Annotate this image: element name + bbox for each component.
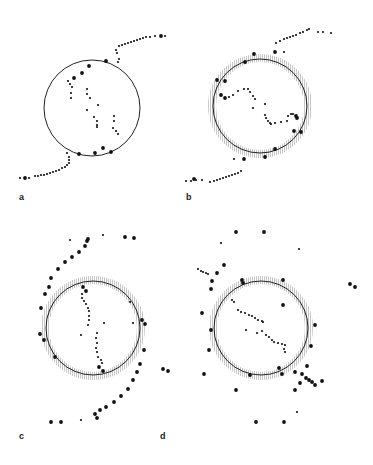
large-dot bbox=[72, 76, 76, 80]
boundary-circle bbox=[44, 60, 140, 156]
large-dot bbox=[77, 152, 81, 156]
small-dot bbox=[290, 113, 292, 115]
large-dot bbox=[222, 263, 226, 267]
large-dot bbox=[273, 50, 277, 54]
small-dot bbox=[83, 300, 85, 302]
small-dot bbox=[254, 317, 256, 319]
small-dot bbox=[102, 234, 104, 236]
large-dot bbox=[207, 348, 211, 352]
small-dot bbox=[97, 104, 99, 106]
small-dot bbox=[93, 116, 95, 118]
small-dot bbox=[248, 314, 250, 316]
small-dot bbox=[96, 126, 98, 128]
large-dot bbox=[140, 318, 144, 322]
small-dot bbox=[317, 31, 319, 33]
figure-canvas bbox=[0, 0, 373, 465]
small-dot bbox=[130, 41, 132, 43]
small-dot bbox=[274, 122, 276, 124]
large-dot bbox=[210, 279, 214, 283]
small-dot bbox=[113, 115, 115, 117]
small-dot bbox=[61, 167, 63, 169]
large-dot bbox=[161, 367, 165, 371]
small-dot bbox=[330, 32, 332, 34]
large-dot bbox=[273, 147, 277, 151]
boundary-circle bbox=[46, 281, 140, 375]
small-dot bbox=[219, 178, 221, 180]
small-dot bbox=[70, 97, 72, 99]
large-dot bbox=[142, 348, 146, 352]
boundary-circle bbox=[214, 281, 308, 375]
small-dot bbox=[86, 109, 88, 111]
small-dot bbox=[96, 332, 98, 334]
small-dot bbox=[306, 29, 308, 31]
small-dot bbox=[252, 95, 254, 97]
small-dot bbox=[233, 301, 235, 303]
small-dot bbox=[287, 115, 289, 117]
small-dot bbox=[265, 117, 267, 119]
small-dot bbox=[283, 38, 285, 40]
small-dot bbox=[284, 351, 286, 353]
small-dot bbox=[52, 171, 54, 173]
small-dot bbox=[43, 174, 45, 176]
small-dot bbox=[280, 121, 282, 123]
small-dot bbox=[68, 159, 70, 161]
panel-label-c: c bbox=[19, 431, 24, 441]
large-dot bbox=[254, 420, 258, 424]
small-dot bbox=[86, 93, 88, 95]
large-dot bbox=[81, 285, 85, 289]
small-dot bbox=[308, 28, 310, 30]
small-dot bbox=[89, 97, 91, 99]
small-dot bbox=[68, 156, 70, 158]
small-dot bbox=[69, 83, 71, 85]
small-dot bbox=[273, 341, 275, 343]
large-dot bbox=[159, 34, 163, 38]
large-dot bbox=[209, 328, 213, 332]
large-dot bbox=[123, 235, 127, 239]
small-dot bbox=[28, 177, 30, 179]
small-dot bbox=[240, 170, 242, 172]
small-dot bbox=[124, 43, 126, 45]
small-dot bbox=[133, 40, 135, 42]
small-dot bbox=[117, 61, 119, 63]
large-dot bbox=[293, 370, 297, 374]
small-dot bbox=[257, 319, 259, 321]
small-dot bbox=[237, 309, 239, 311]
small-dot bbox=[292, 35, 294, 37]
large-dot bbox=[109, 150, 113, 154]
small-dot bbox=[88, 310, 90, 312]
small-dot bbox=[95, 347, 97, 349]
large-dot bbox=[47, 285, 51, 289]
panel-b bbox=[185, 28, 332, 183]
small-dot bbox=[262, 321, 264, 323]
large-dot bbox=[143, 322, 147, 326]
panel-d bbox=[197, 230, 357, 424]
small-dot bbox=[205, 272, 207, 274]
small-dot bbox=[245, 329, 247, 331]
large-dot bbox=[263, 155, 267, 159]
small-dot bbox=[129, 301, 131, 303]
small-dot bbox=[100, 359, 102, 361]
large-dot bbox=[223, 96, 227, 100]
panel-label-b: b bbox=[186, 192, 192, 202]
small-dot bbox=[265, 334, 267, 336]
small-dot bbox=[231, 299, 233, 301]
small-dot bbox=[237, 90, 239, 92]
large-dot bbox=[299, 130, 303, 134]
small-dot bbox=[240, 311, 242, 313]
large-dot bbox=[243, 60, 247, 64]
small-dot bbox=[298, 248, 300, 250]
large-dot bbox=[248, 373, 252, 377]
large-dot bbox=[56, 267, 60, 271]
large-dot bbox=[277, 366, 281, 370]
large-dot bbox=[234, 388, 238, 392]
small-dot bbox=[277, 342, 279, 344]
large-dot bbox=[282, 420, 286, 424]
small-dot bbox=[96, 120, 98, 122]
small-dot bbox=[69, 239, 71, 241]
small-dot bbox=[228, 175, 230, 177]
small-dot bbox=[96, 124, 98, 126]
small-dot bbox=[88, 319, 90, 321]
small-dot bbox=[145, 36, 147, 38]
small-dot bbox=[264, 114, 266, 116]
large-dot bbox=[95, 416, 99, 420]
